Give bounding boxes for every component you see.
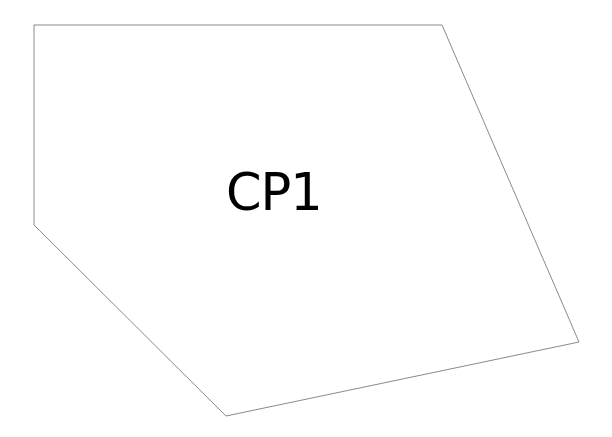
polygon-label: CP1 [226,160,320,226]
